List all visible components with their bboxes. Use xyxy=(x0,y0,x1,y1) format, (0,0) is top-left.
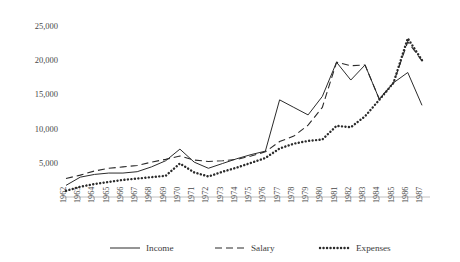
legend-label-income: Income xyxy=(146,243,174,253)
y-tick-label: 20,000 xyxy=(35,55,58,65)
x-tick-label: 1976 xyxy=(258,187,267,203)
series-line-income xyxy=(66,62,422,185)
x-tick-label: 1967 xyxy=(130,187,139,203)
x-tick-label: 1979 xyxy=(301,187,310,203)
x-tick-label: 1964 xyxy=(87,187,96,203)
legend-label-expenses: Expenses xyxy=(356,243,391,253)
x-tick-label: 1969 xyxy=(159,187,168,203)
x-tick-label: 1984 xyxy=(372,187,381,203)
x-tick-label: 1972 xyxy=(201,187,210,203)
series-group xyxy=(66,38,422,191)
x-tick-label: 1962 xyxy=(59,187,68,203)
x-tick-label: 1978 xyxy=(287,187,296,203)
chart-legend: IncomeSalaryExpenses xyxy=(110,243,391,253)
x-tick-label: 1974 xyxy=(230,187,239,203)
x-tick-label: 1980 xyxy=(315,187,324,203)
x-tick-label: 1975 xyxy=(244,187,253,203)
y-tick-label: 10,000 xyxy=(35,124,58,134)
x-tick-label: 1971 xyxy=(187,187,196,203)
x-tick-label: 1983 xyxy=(358,187,367,203)
x-tick-label: 1977 xyxy=(273,187,282,203)
y-tick-label: 5,000 xyxy=(39,158,58,168)
chart-canvas: 5,00010,00015,00020,00025,000 1962196319… xyxy=(0,0,460,262)
x-tick-label: 1987 xyxy=(415,187,424,203)
x-tick-label: 1970 xyxy=(173,187,182,203)
y-tick-label: 15,000 xyxy=(35,89,58,99)
x-tick-label: 1973 xyxy=(216,187,225,203)
x-tick-label: 1986 xyxy=(401,187,410,203)
x-tick-label: 1963 xyxy=(73,187,82,203)
x-tick-label: 1981 xyxy=(330,187,339,203)
x-axis-tick-labels: 1962196319641965196619671968196919701971… xyxy=(59,187,424,203)
y-axis-tick-labels: 5,00010,00015,00020,00025,000 xyxy=(35,21,58,168)
x-tick-label: 1965 xyxy=(102,187,111,203)
x-tick-label: 1968 xyxy=(144,187,153,203)
y-tick-label: 25,000 xyxy=(35,21,58,31)
line-chart: 5,00010,00015,00020,00025,000 1962196319… xyxy=(0,0,460,262)
series-line-salary xyxy=(66,42,422,179)
series-line-expenses xyxy=(66,38,422,191)
x-tick-label: 1966 xyxy=(116,187,125,203)
legend-label-salary: Salary xyxy=(251,243,275,253)
x-tick-label: 1982 xyxy=(344,187,353,203)
x-tick-label: 1985 xyxy=(387,187,396,203)
